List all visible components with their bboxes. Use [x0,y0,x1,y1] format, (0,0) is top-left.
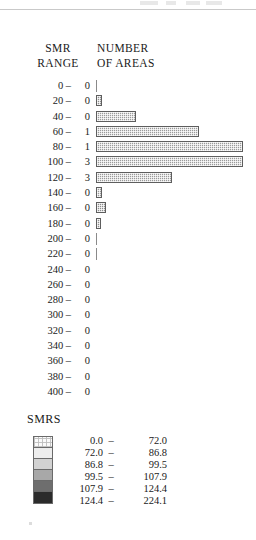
page-header-rule [0,9,256,10]
row-range-label: 120 – [24,170,71,185]
row-range-label: 160 – [24,200,71,215]
histogram-row: 40 –0 [0,109,256,124]
histogram-row: 320 –0 [0,323,256,338]
row-bar-area [96,185,256,200]
row-count-value: 3 [72,170,90,185]
histogram-row: 120 –3 [0,170,256,185]
histogram-row: 180 –0 [0,216,256,231]
histogram-bar [96,141,243,152]
row-count-value: 0 [72,277,90,292]
row-count-value: 0 [72,292,90,307]
legend-range-low: 86.8 [58,459,103,471]
row-bar-area [96,231,256,246]
legend-range-row: 107.9–124.4 [58,483,188,495]
legend-range-rows: 0.0–72.072.0–86.886.8–99.599.5–107.9107.… [58,435,188,507]
histogram-row: 60 –1 [0,124,256,139]
histogram-row: 280 –0 [0,292,256,307]
row-count-value: 0 [72,369,90,384]
row-bar-area [96,200,256,215]
smr-histogram: 0 –020 –040 –060 –180 –1100 –3120 –3140 … [0,78,256,399]
row-bar-area [96,323,256,338]
histogram-row: 340 –0 [0,338,256,353]
histogram-row: 140 –0 [0,185,256,200]
row-range-label: 80 – [24,139,71,154]
row-bar-area [96,277,256,292]
row-range-label: 360 – [24,353,71,368]
row-bar-area [96,353,256,368]
row-bar-area [96,78,256,93]
row-range-label: 200 – [24,231,71,246]
legend-range-row: 99.5–107.9 [58,471,188,483]
histogram-bar [96,80,97,92]
row-count-value: 0 [72,353,90,368]
row-range-label: 300 – [24,307,71,322]
row-bar-area [96,292,256,307]
row-range-label: 340 – [24,338,71,353]
histogram-row: 200 –0 [0,231,256,246]
row-bar-area [96,338,256,353]
row-range-label: 220 – [24,246,71,261]
row-bar-area [96,216,256,231]
histogram-row: 0 –0 [0,78,256,93]
histogram-bar [96,172,172,183]
legend-range-low: 99.5 [58,471,103,483]
row-range-label: 380 – [24,369,71,384]
legend-swatch [34,459,52,470]
row-count-value: 0 [72,200,90,215]
legend-swatch [34,492,52,503]
histogram-bar [96,233,97,245]
heading-number: NUMBER [97,41,149,56]
histogram-bar [96,202,106,213]
row-range-label: 280 – [24,292,71,307]
row-range-label: 180 – [24,216,71,231]
column-headings: SMR RANGE NUMBER OF AREAS [0,41,256,73]
row-bar-area [96,154,256,169]
row-count-value: 0 [72,78,90,93]
histogram-row: 300 –0 [0,307,256,322]
row-bar-area [96,262,256,277]
histogram-row: 400 –0 [0,384,256,399]
row-count-value: 0 [72,216,90,231]
legend-swatch [34,481,52,492]
legend-range-high: 86.8 [119,447,167,459]
row-range-label: 320 – [24,323,71,338]
histogram-row: 220 –0 [0,246,256,261]
row-range-label: 400 – [24,384,71,399]
row-count-value: 3 [72,154,90,169]
row-range-label: 60 – [24,124,71,139]
row-count-value: 0 [72,262,90,277]
legend-range-high: 124.4 [119,483,167,495]
legend-range-low: 124.4 [58,495,103,507]
row-bar-area [96,307,256,322]
row-bar-area [96,369,256,384]
histogram-row: 380 –0 [0,369,256,384]
legend-swatch [34,470,52,481]
legend-range-row: 0.0–72.0 [58,435,188,447]
legend-swatch [34,448,52,459]
legend-range-low: 0.0 [58,435,103,447]
legend-range-dash: – [103,459,119,471]
row-count-value: 0 [72,185,90,200]
row-count-value: 1 [72,139,90,154]
legend-range-low: 72.0 [58,447,103,459]
legend-swatch [34,437,52,448]
row-bar-area [96,139,256,154]
histogram-row: 260 –0 [0,277,256,292]
heading-smr: SMR [27,41,89,56]
legend-range-high: 99.5 [119,459,167,471]
histogram-row: 160 –0 [0,200,256,215]
row-bar-area [96,170,256,185]
page-top-artifact [0,0,256,9]
legend-swatch-column [33,436,53,504]
row-range-label: 20 – [24,93,71,108]
legend-range-high: 224.1 [119,495,167,507]
histogram-row: 20 –0 [0,93,256,108]
row-bar-area [96,384,256,399]
histogram-bar [96,95,102,106]
histogram-bar [96,126,199,137]
row-range-label: 140 – [24,185,71,200]
row-range-label: 240 – [24,262,71,277]
row-count-value: 0 [72,93,90,108]
heading-range: RANGE [21,56,95,71]
row-count-value: 0 [72,323,90,338]
